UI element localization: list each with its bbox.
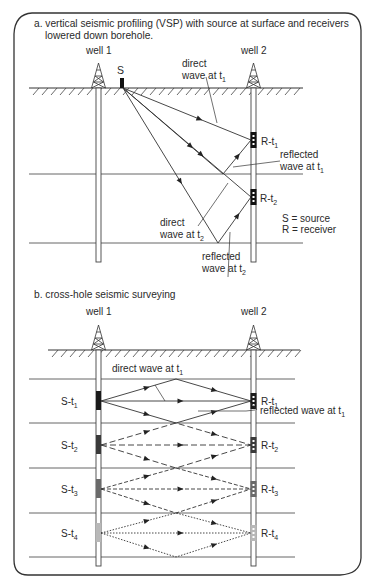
ground-hatch [133, 350, 139, 357]
ray-arrowhead [211, 520, 217, 525]
derrick-icon [92, 325, 106, 350]
ground-hatch [178, 350, 184, 357]
ground-hatch [114, 88, 120, 95]
receiver-geophone [253, 536, 255, 538]
ground-surface-b [48, 350, 301, 357]
reflected-ray-lower [101, 533, 251, 557]
source-label: S-t1 [61, 396, 78, 409]
ground-hatch [79, 350, 85, 357]
receiver-geophone [253, 200, 255, 202]
reflected-ray-upper [101, 513, 251, 533]
ground-hatch [33, 88, 39, 95]
receiver-geophone [253, 488, 255, 490]
ground-hatch [88, 350, 94, 357]
source-label: S-t3 [61, 484, 78, 497]
receiver-geophone [253, 396, 255, 398]
ray-arrowhead [211, 387, 217, 392]
receiver-label: R-t2 [261, 440, 278, 453]
ground-hatch [124, 350, 130, 357]
receiver-geophone [253, 400, 255, 402]
receiver-r-t1 [251, 132, 257, 148]
receiver-geophone [253, 528, 255, 530]
ground-hatch [51, 88, 57, 95]
reflected-ray-upper [101, 468, 251, 489]
receiver-geophone [253, 139, 255, 141]
receiver-r-t2 [251, 189, 257, 205]
ray-arrowhead [177, 178, 182, 184]
ground-hatch [231, 88, 237, 95]
receiver-geophone [253, 196, 255, 198]
ground-hatch [186, 88, 192, 95]
ground-hatch [151, 350, 157, 357]
receiver-geophone [253, 484, 255, 486]
ground-hatch [115, 350, 121, 357]
receiver-label: R-t4 [261, 528, 278, 541]
ground-hatch [159, 88, 165, 95]
ray-arrowhead [143, 386, 149, 391]
direct-wave-t1-label-b: direct wave at t1 [112, 363, 183, 376]
well-1-borehole [96, 88, 101, 262]
ground-hatch [160, 350, 166, 357]
reflected-wave-t1-label: reflected wave at t1 [279, 149, 324, 174]
legend-source: S = source [282, 213, 331, 224]
receiver-geophone [253, 135, 255, 137]
reflected-ray-upper [101, 379, 251, 401]
well2-label-b: well 2 [240, 306, 267, 317]
ground-surface [29, 88, 303, 95]
receiver-geophone [253, 532, 255, 534]
ray-arrowhead [211, 475, 217, 480]
panel-a-title-line2: lowered down borehole. [45, 30, 153, 41]
ground-hatch [222, 88, 228, 95]
reflected-ray-t1 [123, 88, 251, 174]
ray-arrowhead [143, 456, 149, 461]
reflected-wave-t1-label-b: reflected wave at t1 [260, 405, 345, 418]
ground-hatch [294, 88, 300, 95]
well1-label-b: well 1 [85, 306, 112, 317]
ground-hatch [70, 350, 76, 357]
source-block [96, 523, 101, 542]
ground-hatch [169, 350, 175, 357]
receiver-geophone [253, 492, 255, 494]
receiver-geophone [253, 143, 255, 145]
ray-arrowhead [178, 442, 184, 447]
derrick-frame [247, 325, 261, 350]
seismic-figure: a. vertical seismic profiling (VSP) with… [0, 0, 372, 587]
reflected-ray-lower [101, 401, 251, 423]
derrick-icon [247, 63, 261, 88]
reflected-ray-lower [101, 445, 251, 468]
ray-arrowhead [234, 213, 240, 219]
derrick-frame [92, 63, 106, 88]
well2-label: well 2 [240, 45, 267, 56]
ground-hatch [42, 88, 48, 95]
ground-hatch [285, 88, 291, 95]
ray-arrowhead [211, 431, 217, 436]
labels-b: S-t1R-t1S-t2R-t2S-t3R-t3S-t4R-t4 [61, 396, 278, 541]
derrick-icon [247, 325, 261, 350]
reflected-wave-t2-label: reflected wave at t2 [201, 251, 246, 276]
ray-arrowhead [143, 411, 149, 416]
ground-hatch [259, 350, 265, 357]
well1-label: well 1 [85, 45, 112, 56]
receiver-label: R-t3 [261, 484, 278, 497]
panel-a-title-line1: a. vertical seismic profiling (VSP) with… [34, 18, 349, 29]
direct-wave-t1-label: direct wave at t1 [181, 58, 226, 83]
source-marker [120, 78, 124, 88]
derrick-icon [92, 63, 106, 88]
receiver-geophone [253, 192, 255, 194]
ground-hatch [177, 88, 183, 95]
source-block [96, 435, 101, 454]
ground-hatch [52, 350, 58, 357]
receiver-geophone [253, 444, 255, 446]
source-label: S-t4 [61, 528, 78, 541]
panel-a: a. vertical seismic profiling (VSP) with… [29, 18, 349, 277]
well-2-borehole [251, 88, 256, 262]
panel-b-title: b. cross-hole seismic surveying [34, 289, 176, 300]
ground-hatch [213, 88, 219, 95]
ray-arrowhead [211, 499, 218, 504]
ground-hatch [60, 88, 66, 95]
ground-hatch [168, 88, 174, 95]
ground-hatch [240, 88, 246, 95]
ground-hatch [276, 88, 282, 95]
receiver-geophone [253, 448, 255, 450]
reflected-ray-lower [101, 489, 251, 513]
